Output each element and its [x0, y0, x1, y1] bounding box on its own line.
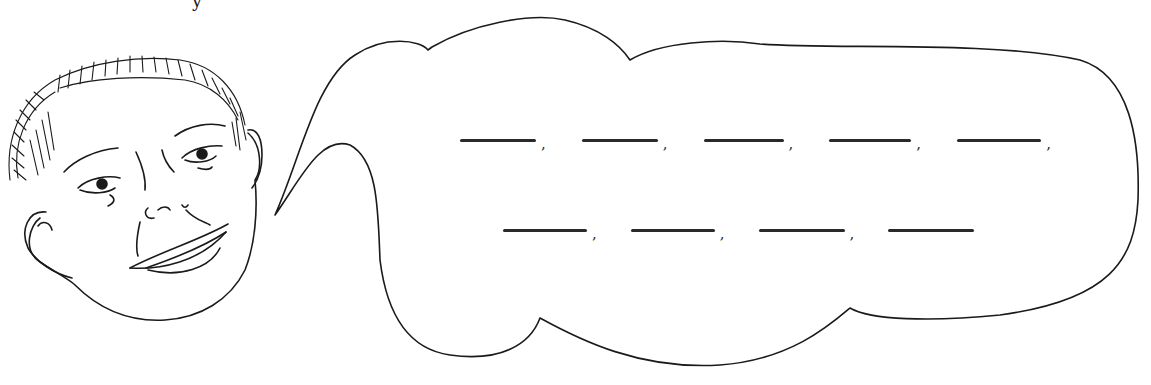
blank-line[interactable] [503, 229, 587, 232]
blank-line[interactable] [888, 229, 974, 232]
hair [9, 56, 246, 180]
face-outline [29, 133, 259, 320]
right-eyebrow [175, 124, 225, 136]
nose [136, 152, 188, 218]
blank-line[interactable] [704, 139, 784, 142]
blank-slot[interactable] [888, 229, 974, 232]
blank-slot[interactable]: , [582, 133, 668, 148]
comma: , [789, 137, 794, 152]
comma: , [916, 137, 921, 152]
left-eyebrow [64, 148, 118, 172]
illustration: y [0, 0, 1151, 385]
blank-row-2: , , , [503, 223, 974, 238]
drawing [0, 0, 1151, 385]
comma: , [663, 137, 668, 152]
comma: , [720, 227, 725, 242]
blank-line[interactable] [957, 139, 1041, 142]
blank-slot[interactable]: , [460, 133, 546, 148]
left-eye [78, 177, 120, 206]
blank-line[interactable] [631, 229, 715, 232]
blank-line[interactable] [582, 139, 658, 142]
mouth [130, 224, 228, 273]
blank-line[interactable] [460, 139, 536, 142]
blank-slot[interactable]: , [957, 133, 1051, 148]
speech-bubble-outline [275, 18, 1138, 366]
blank-line[interactable] [829, 139, 911, 142]
blank-line[interactable] [759, 229, 845, 232]
blank-slot[interactable]: , [503, 223, 597, 238]
right-eye [182, 146, 222, 170]
blank-slot[interactable]: , [829, 133, 921, 148]
left-ear [25, 212, 72, 278]
comma: , [1046, 137, 1051, 152]
blank-slot[interactable]: , [704, 133, 794, 148]
blank-slot[interactable]: , [631, 223, 725, 238]
comma: , [592, 227, 597, 242]
comma: , [541, 137, 546, 152]
blank-row-1: , , , , , [460, 133, 1051, 148]
comma: , [850, 227, 855, 242]
blank-slot[interactable]: , [759, 223, 855, 238]
